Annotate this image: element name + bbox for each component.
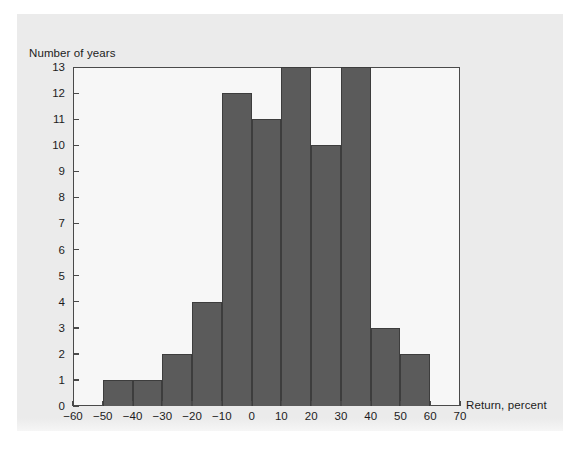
histogram-bar [281,67,311,406]
x-tick-mark [400,401,401,406]
x-tick-label: 0 [248,410,254,422]
histogram-bar [311,145,341,406]
x-tick-label: −30 [153,410,173,422]
y-tick-label: 1 [59,374,65,386]
x-tick-mark [311,401,312,406]
x-tick-mark [281,401,282,406]
y-tick-mark [73,223,79,224]
y-tick-mark [73,249,79,250]
x-tick-mark [251,401,252,406]
histogram-bar [162,354,192,406]
x-tick-label: −40 [123,410,143,422]
x-tick-mark [221,401,222,406]
y-tick-label: 4 [59,296,65,308]
x-tick-label: 10 [275,410,288,422]
x-tick-label: −20 [182,410,202,422]
x-tick-label: −50 [93,410,113,422]
y-tick-mark [73,379,79,380]
x-tick-mark [430,401,431,406]
x-tick-mark [162,401,163,406]
x-tick-mark [72,401,73,406]
histogram-bar [133,380,163,406]
y-tick-mark [73,145,79,146]
histogram-bar [400,354,430,406]
x-tick-mark [132,401,133,406]
x-tick-label: 20 [305,410,318,422]
y-tick-mark [73,301,79,302]
x-tick-label: 40 [364,410,377,422]
histogram-figure: Number of years 012345678910111213 −60−5… [0,0,580,457]
histogram-bar [222,93,252,406]
y-tick-mark [73,353,79,354]
x-tick-label: 50 [394,410,407,422]
y-tick-mark [73,171,79,172]
x-axis-title: Return, percent [466,399,547,411]
histogram-bar [103,380,133,406]
y-tick-mark [73,67,79,68]
y-tick-label: 13 [52,61,65,73]
y-tick-mark [73,119,79,120]
y-tick-label: 6 [59,244,65,256]
y-tick-label: 5 [59,270,65,282]
x-tick-mark [459,401,460,406]
y-tick-label: 3 [59,322,65,334]
x-tick-label: 70 [454,410,467,422]
y-tick-mark [73,406,79,407]
x-tick-mark [191,401,192,406]
y-tick-label: 10 [52,139,65,151]
y-tick-label: 9 [59,165,65,177]
x-tick-mark [102,401,103,406]
x-tick-mark [370,401,371,406]
histogram-bar [371,328,401,406]
y-tick-label: 11 [53,113,65,125]
histogram-bar [252,119,282,406]
y-tick-mark [73,275,79,276]
x-tick-label: −10 [212,410,232,422]
y-tick-mark [73,327,79,328]
y-tick-label: 7 [59,217,65,229]
x-tick-label: 30 [335,410,348,422]
bars-layer [73,67,460,406]
histogram-bar [192,302,222,406]
y-tick-mark [73,93,79,94]
y-tick-label: 8 [59,191,65,203]
y-tick-mark [73,197,79,198]
x-tick-label: −60 [63,410,83,422]
x-tick-mark [340,401,341,406]
y-axis-title: Number of years [29,47,116,59]
y-tick-label: 2 [59,348,65,360]
y-tick-label: 12 [52,87,65,99]
histogram-bar [341,67,371,406]
x-tick-label: 60 [424,410,437,422]
